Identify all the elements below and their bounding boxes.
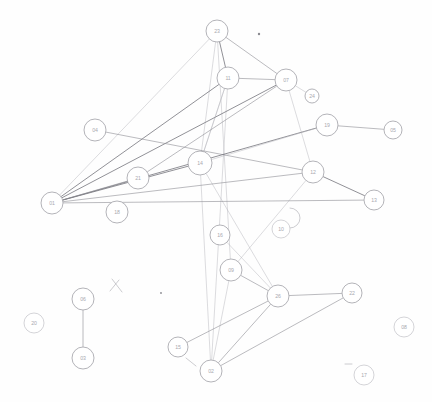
node-label: 21 (135, 175, 141, 181)
node-label: 22 (349, 290, 355, 296)
graph-node[interactable]: 19 (316, 114, 338, 136)
graph-node[interactable]: 20 (24, 313, 44, 333)
node-label: 12 (310, 169, 316, 175)
graph-node[interactable]: 01 (41, 192, 63, 214)
network-graph: 2311070419051421120118131609262206200315… (0, 0, 432, 402)
node-label: 16 (217, 232, 223, 238)
graph-edge (289, 293, 341, 295)
graph-edge (241, 276, 268, 291)
graph-edge (212, 128, 316, 159)
graph-edge (201, 175, 211, 359)
graph-node[interactable]: 04 (84, 119, 106, 141)
graph-node[interactable]: 08 (394, 317, 414, 337)
graph-edge (63, 200, 363, 203)
graph-edge (63, 173, 301, 201)
stray-pencil-mark (112, 279, 122, 292)
graph-node[interactable]: 03 (72, 347, 94, 369)
stray-pencil-mark (186, 358, 196, 366)
node-label: 15 (175, 344, 181, 350)
graph-canvas: 2311070419051421120118131609262206200315… (0, 0, 432, 402)
graph-edge (338, 126, 383, 129)
graph-node[interactable]: 05 (384, 121, 402, 139)
graph-node[interactable]: 21 (127, 167, 149, 189)
graph-node[interactable]: 24 (305, 89, 319, 103)
graph-node[interactable]: 23 (206, 20, 228, 42)
graph-node[interactable]: 14 (188, 151, 212, 175)
graph-node[interactable]: 13 (364, 190, 384, 210)
node-label: 17 (361, 372, 367, 378)
node-label: 10 (278, 226, 284, 232)
graph-edge (239, 78, 274, 79)
graph-node[interactable]: 10 (272, 220, 290, 238)
node-label: 05 (390, 127, 396, 133)
graph-edge (296, 86, 306, 92)
paper-speck (160, 292, 162, 294)
graph-node[interactable]: 17 (354, 365, 374, 385)
node-label: 01 (49, 200, 55, 206)
graph-edge (63, 166, 188, 200)
node-label: 24 (309, 93, 315, 99)
node-label: 04 (92, 127, 98, 133)
graph-node[interactable]: 16 (210, 225, 230, 245)
node-label: 23 (214, 28, 220, 34)
node-label: 20 (31, 320, 37, 326)
graph-edge (62, 85, 276, 197)
graph-node[interactable]: 07 (275, 69, 297, 91)
stray-pencil-mark (110, 280, 119, 291)
graph-edge (238, 181, 305, 261)
graph-node[interactable]: 15 (168, 337, 188, 357)
paper-speck (258, 33, 260, 35)
graph-node[interactable]: 12 (302, 161, 324, 183)
graph-node[interactable]: 22 (342, 283, 362, 303)
graph-edge (63, 181, 127, 200)
graph-node[interactable]: 18 (106, 201, 128, 223)
node-label: 26 (275, 293, 281, 299)
node-label: 03 (80, 355, 86, 361)
node-label: 18 (114, 209, 120, 215)
graph-node[interactable]: 02 (200, 360, 222, 382)
graph-edge (212, 89, 228, 359)
stray-pencil-arc (290, 208, 300, 228)
graph-edge (220, 42, 226, 67)
node-label: 11 (226, 75, 231, 81)
graph-node[interactable]: 11 (217, 67, 239, 89)
graph-node[interactable]: 09 (220, 259, 242, 281)
graph-edge (289, 91, 310, 161)
node-label: 09 (228, 267, 234, 273)
graph-node[interactable]: 06 (72, 288, 94, 310)
graph-edge (323, 177, 364, 196)
node-label: 02 (208, 368, 214, 374)
graph-edge (187, 301, 267, 342)
graph-edge (221, 298, 343, 365)
node-label: 07 (283, 77, 289, 83)
graph-edge (226, 38, 276, 74)
graph-node[interactable]: 26 (267, 285, 289, 307)
graph-edge (148, 86, 277, 171)
node-label: 14 (197, 160, 203, 166)
graph-edge (204, 89, 224, 151)
node-label: 06 (80, 296, 86, 302)
node-label: 19 (324, 122, 330, 128)
node-label: 08 (401, 324, 407, 330)
node-label: 13 (371, 197, 377, 203)
